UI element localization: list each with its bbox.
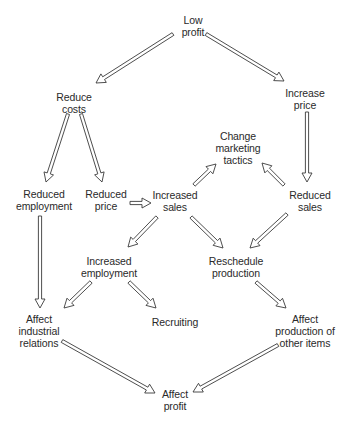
arrow-affect-production-other-to-affect-profit-icon: [193, 344, 279, 392]
node-increase-price: Increaseprice: [285, 87, 324, 111]
arrow-low-profit-to-increase-price-icon: [205, 33, 284, 81]
arrow-increase-price-to-reduced-sales-icon: [302, 112, 312, 182]
arrow-reduced-sales-to-change-marketing-icon: [262, 163, 285, 186]
node-label-line: Recruiting: [152, 316, 198, 328]
arrow-reduce-costs-to-reduced-employment-icon: [44, 114, 70, 183]
node-label-line: employment: [81, 267, 137, 279]
node-low-profit: Lowprofit: [182, 14, 205, 38]
node-label-line: production: [209, 267, 263, 279]
arrow-increased-employment-to-affect-industrial-relations-icon: [64, 281, 92, 308]
arrow-increased-sales-to-change-marketing-icon: [193, 164, 216, 186]
node-label-line: Change: [215, 130, 260, 142]
node-reschedule-production: Rescheduleproduction: [209, 255, 263, 279]
arrow-reduced-employment-to-affect-industrial-relations-icon: [35, 216, 45, 308]
arrow-affect-industrial-relations-to-affect-profit-icon: [61, 340, 155, 393]
node-label-line: price: [285, 99, 324, 111]
node-increased-employment: Increasedemployment: [81, 255, 137, 279]
node-label-line: Reduced: [85, 188, 126, 200]
arrow-reduced-price-to-increased-sales-icon: [130, 198, 151, 208]
node-label-line: employment: [16, 200, 72, 212]
node-label-line: Increase: [285, 87, 324, 99]
node-affect-profit: Affectprofit: [162, 388, 188, 412]
arrow-increased-employment-to-recruiting-icon: [128, 281, 156, 308]
node-affect-production-other: Affectproduction ofother items: [275, 313, 334, 349]
node-label-line: Reduce: [56, 91, 92, 103]
node-label-line: profit: [182, 26, 205, 38]
node-label-line: Low: [182, 14, 205, 26]
node-label-line: production of: [275, 325, 334, 337]
node-label-line: profit: [162, 400, 188, 412]
arrow-reduced-sales-to-reschedule-production-icon: [250, 213, 288, 248]
node-label-line: costs: [56, 103, 92, 115]
node-label-line: Affect: [275, 313, 334, 325]
node-label-line: Increased: [152, 189, 197, 201]
node-label-line: marketing: [215, 142, 260, 154]
node-reduced-sales: Reducedsales: [289, 189, 330, 213]
node-label-line: Increased: [81, 255, 137, 267]
node-label-line: price: [85, 200, 126, 212]
arrow-reduce-costs-to-reduced-price-icon: [80, 114, 105, 183]
arrow-increased-sales-to-reschedule-production-icon: [190, 216, 223, 248]
node-label-line: Reschedule: [209, 255, 263, 267]
node-recruiting: Recruiting: [152, 316, 198, 328]
node-label-line: Reduced: [289, 189, 330, 201]
node-affect-industrial-relations: Affectindustrialrelations: [18, 313, 59, 349]
node-label-line: sales: [152, 201, 197, 213]
arrow-low-profit-to-reduce-costs-icon: [96, 33, 174, 83]
node-reduced-employment: Reducedemployment: [16, 188, 72, 212]
node-increased-sales: Increasedsales: [152, 189, 197, 213]
node-label-line: relations: [18, 337, 59, 349]
node-label-line: Reduced: [16, 188, 72, 200]
node-reduced-price: Reducedprice: [85, 188, 126, 212]
node-reduce-costs: Reducecosts: [56, 91, 92, 115]
node-label-line: Affect: [18, 313, 59, 325]
node-change-marketing: Changemarketingtactics: [215, 130, 260, 166]
arrow-reschedule-production-to-affect-production-other-icon: [255, 281, 286, 308]
node-label-line: other items: [275, 337, 334, 349]
node-label-line: tactics: [215, 154, 260, 166]
arrow-increased-sales-to-increased-employment-icon: [128, 216, 158, 247]
node-label-line: Affect: [162, 388, 188, 400]
node-label-line: sales: [289, 201, 330, 213]
node-label-line: industrial: [18, 325, 59, 337]
